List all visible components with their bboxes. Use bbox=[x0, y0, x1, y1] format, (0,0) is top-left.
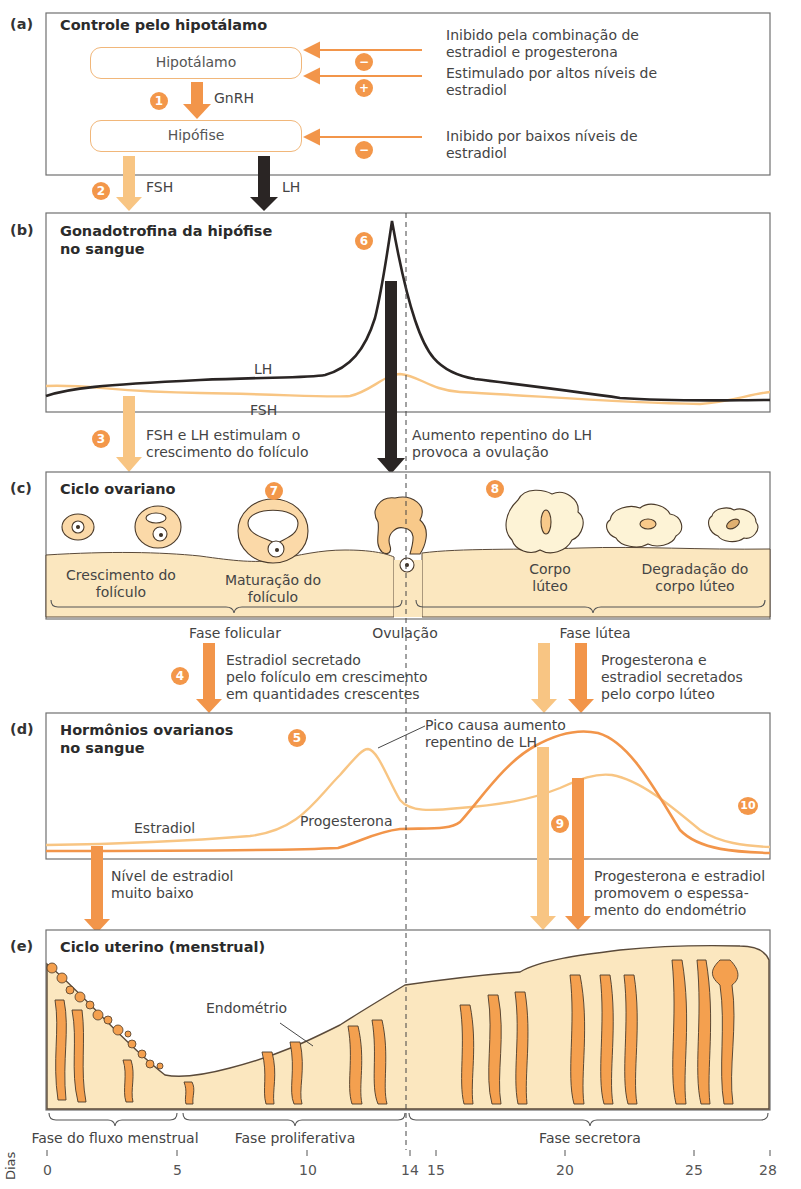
peak-note-line2: repentino de LH bbox=[425, 734, 537, 751]
step-badge-8: 8 bbox=[486, 480, 504, 498]
thickening-note-line2: promovem o espessa- bbox=[594, 885, 749, 902]
step-badge-7: 7 bbox=[265, 482, 283, 500]
step-badge-4: 4 bbox=[171, 667, 189, 685]
minus-badge-1: − bbox=[355, 53, 373, 71]
phase-proliferative-label: Fase proliferativa bbox=[215, 1130, 375, 1147]
fsh-lh-note-line2: crescimento do folículo bbox=[146, 444, 308, 461]
luteum-degradation-line2: corpo lúteo bbox=[625, 578, 765, 595]
day-tick-14: 14 bbox=[401, 1162, 419, 1178]
feedback-3-line1: Inibido por baixos níveis de bbox=[446, 128, 638, 145]
panel-e-title: Ciclo uterino (menstrual) bbox=[60, 938, 265, 956]
fsh-arrow-label: FSH bbox=[146, 179, 173, 196]
step-badge-10: 10 bbox=[738, 797, 758, 815]
ovulation-label: Ovulação bbox=[355, 625, 455, 642]
estradiol-note-line1: Estradiol secretado bbox=[226, 652, 361, 669]
step-badge-5: 5 bbox=[288, 729, 306, 747]
phase-braces-e bbox=[49, 1113, 768, 1126]
luteal-note-line3: pelo corpo lúteo bbox=[601, 686, 715, 703]
day-tick-10: 10 bbox=[299, 1162, 317, 1178]
feedback-2-line1: Estimulado por altos níveis de bbox=[446, 65, 657, 82]
day-tick-15: 15 bbox=[427, 1162, 445, 1178]
progesterone-curve-label: Progesterona bbox=[300, 813, 393, 830]
step-badge-1: 1 bbox=[150, 92, 168, 110]
follicular-phase-label: Fase folicular bbox=[170, 625, 300, 642]
thickening-note-line1: Progesterona e estradiol bbox=[594, 868, 765, 885]
luteal-arrows bbox=[531, 643, 594, 713]
panel-e-letter: (e) bbox=[10, 938, 33, 955]
low-estradiol-note-line1: Nível de estradiol bbox=[111, 868, 234, 885]
thickening-note-line3: mento do endométrio bbox=[594, 902, 746, 919]
luteal-phase-label: Fase lútea bbox=[545, 625, 645, 642]
gnrh-label: GnRH bbox=[214, 90, 254, 107]
day-tick-5: 5 bbox=[173, 1162, 182, 1178]
panel-b-letter: (b) bbox=[10, 222, 34, 239]
day-tick-20: 20 bbox=[556, 1162, 574, 1178]
estradiol-note-line3: em quantidades crescentes bbox=[226, 686, 420, 703]
panel-b-title-line1: Gonadotrofina da hipófise bbox=[60, 222, 272, 240]
luteum-degradation-line1: Degradação do bbox=[625, 561, 765, 578]
panel-d-letter: (d) bbox=[10, 721, 34, 738]
fsh-curve-label: FSH bbox=[250, 402, 277, 419]
fsh-lh-note-line1: FSH e LH estimulam o bbox=[146, 427, 300, 444]
day-tick-28: 28 bbox=[759, 1162, 777, 1178]
corpus-luteum-line2: lúteo bbox=[510, 578, 590, 595]
day-tick-0: 0 bbox=[43, 1162, 52, 1178]
peak-note-line1: Pico causa aumento bbox=[425, 717, 566, 734]
step-badge-2: 2 bbox=[92, 182, 110, 200]
estradiol-note-line2: pelo folículo em crescimento bbox=[226, 669, 428, 686]
day-ticks bbox=[47, 1150, 770, 1156]
feedback-1-line1: Inibido pela combinação de bbox=[446, 27, 639, 44]
axis-label-days: Dias bbox=[2, 1152, 19, 1180]
feedback-2-line2: estradiol bbox=[446, 82, 507, 99]
follicle-growth-line1: Crescimento do bbox=[56, 567, 186, 584]
phase-menstrual-label: Fase do fluxo menstrual bbox=[15, 1130, 215, 1147]
panel-b-title-line2: no sangue bbox=[60, 240, 145, 258]
panel-d-title-line1: Hormônios ovarianos bbox=[60, 721, 233, 739]
feedback-3-line2: estradiol bbox=[446, 145, 507, 162]
follicle-maturation-line2: folículo bbox=[208, 589, 338, 606]
panel-a-title: Controle pelo hipotálamo bbox=[60, 16, 267, 34]
follicle-growth-line2: folículo bbox=[56, 584, 186, 601]
follicle-maturation-line1: Maturação do bbox=[208, 572, 338, 589]
endometrium-label: Endométrio bbox=[206, 1000, 287, 1017]
plus-badge: + bbox=[355, 79, 373, 97]
panel-a-letter: (a) bbox=[10, 16, 33, 33]
step-badge-3: 3 bbox=[92, 430, 110, 448]
lh-surge-note-line2: provoca a ovulação bbox=[412, 444, 549, 461]
lh-surge-note-line1: Aumento repentino do LH bbox=[412, 427, 592, 444]
hypothalamus-box: Hipotálamo bbox=[90, 47, 302, 79]
estradiol-arrow bbox=[196, 643, 222, 713]
panel-d-title-line2: no sangue bbox=[60, 739, 145, 757]
step-badge-6: 6 bbox=[355, 232, 373, 250]
lh-curve-label: LH bbox=[254, 361, 272, 378]
panel-c-title: Ciclo ovariano bbox=[60, 480, 176, 498]
minus-badge-2: − bbox=[355, 141, 373, 159]
pituitary-box: Hipófise bbox=[90, 120, 302, 152]
luteal-note-line1: Progesterona e bbox=[601, 652, 707, 669]
estradiol-curve-label: Estradiol bbox=[134, 820, 195, 837]
panel-c-letter: (c) bbox=[10, 480, 32, 497]
lh-arrow-label: LH bbox=[282, 179, 300, 196]
feedback-1-line2: estradiol e progesterona bbox=[446, 44, 618, 61]
luteal-note-line2: estradiol secretados bbox=[601, 669, 743, 686]
step-badge-9: 9 bbox=[551, 815, 569, 833]
day-tick-25: 25 bbox=[685, 1162, 703, 1178]
low-estradiol-note-line2: muito baixo bbox=[111, 885, 194, 902]
corpus-luteum-line1: Corpo bbox=[510, 561, 590, 578]
phase-secretory-label: Fase secretora bbox=[530, 1130, 650, 1147]
